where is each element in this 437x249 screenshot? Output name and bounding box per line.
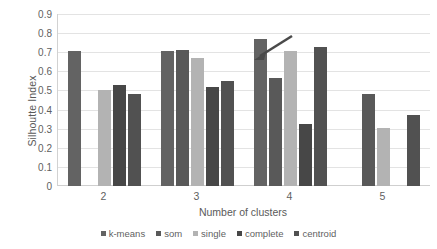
x-axis-tick-labels: 2345 (57, 190, 429, 206)
bar-slot (98, 14, 111, 186)
y-axis-tick-label: 0.6 (22, 66, 52, 77)
bar-k-means-4[interactable] (254, 39, 267, 186)
bar-slot (221, 14, 234, 186)
bar-slot (176, 14, 189, 186)
bar-single-3[interactable] (191, 58, 204, 186)
bar-slot (347, 14, 360, 186)
y-axis-tick-label: 0.9 (22, 9, 52, 20)
bar-slot (206, 14, 219, 186)
y-axis-tick-labels: 0.90.80.70.60.50.40.30.20.10 (22, 14, 52, 186)
bar-slot (392, 14, 405, 186)
legend-item-complete[interactable]: complete (237, 228, 284, 239)
legend-item-som[interactable]: som (156, 228, 182, 239)
bars-layer (58, 14, 430, 186)
legend-swatch-icon (294, 231, 299, 236)
bar-centroid-4[interactable] (314, 47, 327, 186)
legend-swatch-icon (193, 231, 198, 236)
legend-swatch-icon (237, 231, 242, 236)
bar-slot (299, 14, 312, 186)
legend-item-k-means[interactable]: k-means (101, 228, 145, 239)
y-axis-tick-label: 0.4 (22, 104, 52, 115)
bar-group (58, 14, 151, 186)
y-axis-tick-label: 0.2 (22, 142, 52, 153)
bar-centroid-2[interactable] (128, 94, 141, 186)
bar-slot (314, 14, 327, 186)
bar-complete-3[interactable] (206, 87, 219, 186)
plot-area (57, 14, 430, 186)
bar-centroid-5[interactable] (407, 115, 420, 186)
bar-som-3[interactable] (176, 50, 189, 186)
x-axis-tick-label: 4 (287, 190, 293, 202)
bar-single-2[interactable] (98, 90, 111, 186)
bar-slot (362, 14, 375, 186)
silhouette-index-bar-chart: Silhoutte Index 0.90.80.70.60.50.40.30.2… (0, 0, 437, 249)
legend-swatch-icon (101, 231, 106, 236)
bar-slot (284, 14, 297, 186)
y-axis-tick-label: 0.8 (22, 28, 52, 39)
bar-slot (191, 14, 204, 186)
y-axis-tick-label: 0.5 (22, 85, 52, 96)
bar-k-means-2[interactable] (68, 51, 81, 186)
bar-single-5[interactable] (377, 128, 390, 186)
bar-group (337, 14, 430, 186)
bar-centroid-3[interactable] (221, 81, 234, 186)
x-axis-tick-label: 3 (194, 190, 200, 202)
bar-complete-2[interactable] (113, 85, 126, 186)
legend: k-meanssomsinglecompletecentroid (0, 228, 437, 239)
y-axis-tick-label: 0 (22, 181, 52, 192)
bar-slot (128, 14, 141, 186)
x-axis-title: Number of clusters (57, 206, 429, 218)
bar-k-means-3[interactable] (161, 51, 174, 186)
bar-slot (68, 14, 81, 186)
bar-som-5[interactable] (362, 94, 375, 186)
y-axis-tick-label: 0.7 (22, 47, 52, 58)
bar-single-4[interactable] (284, 51, 297, 186)
bar-slot (161, 14, 174, 186)
bar-slot (377, 14, 390, 186)
bar-som-4[interactable] (269, 78, 282, 186)
legend-swatch-icon (156, 231, 161, 236)
bar-group (151, 14, 244, 186)
legend-label: complete (245, 228, 284, 239)
y-axis-tick-label: 0.1 (22, 161, 52, 172)
legend-item-single[interactable]: single (193, 228, 226, 239)
legend-label: som (164, 228, 182, 239)
bar-complete-4[interactable] (299, 124, 312, 186)
legend-label: k-means (109, 228, 145, 239)
x-axis-tick-label: 2 (101, 190, 107, 202)
bar-group (244, 14, 337, 186)
bar-slot (254, 14, 267, 186)
legend-label: centroid (302, 228, 336, 239)
bar-slot (269, 14, 282, 186)
legend-label: single (201, 228, 226, 239)
legend-item-centroid[interactable]: centroid (294, 228, 336, 239)
bar-slot (83, 14, 96, 186)
bar-slot (113, 14, 126, 186)
y-axis-tick-label: 0.3 (22, 123, 52, 134)
x-axis-tick-label: 5 (380, 190, 386, 202)
bar-slot (407, 14, 420, 186)
